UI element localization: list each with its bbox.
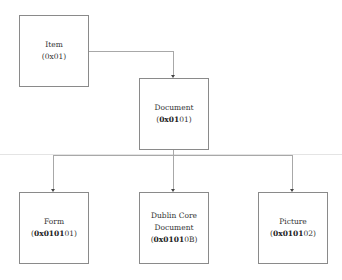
node-label: Picture — [279, 216, 307, 228]
node-label: Item — [45, 39, 63, 51]
node-code: (0x010102) — [270, 228, 316, 240]
node-dublin-core-document: Dublin Core Document (0x01010B) — [139, 192, 209, 264]
node-label-line1: Dublin Core — [151, 210, 197, 222]
node-label: Document — [155, 102, 194, 114]
connector-item-document-h — [88, 51, 174, 52]
node-form: Form (0x010101) — [19, 192, 89, 264]
node-label-line2: Document — [155, 222, 194, 234]
node-picture: Picture (0x010102) — [258, 192, 328, 264]
node-code: (0x010101) — [31, 228, 77, 240]
node-label: Form — [44, 216, 64, 228]
connector-item-document-v — [173, 51, 174, 76]
connector-to-dublin-core — [173, 155, 174, 190]
node-document: Document (0x0101) — [139, 78, 209, 150]
node-code: (0x0101) — [156, 114, 192, 126]
node-code: (0x01) — [42, 51, 66, 63]
connector-to-picture — [292, 155, 293, 190]
connector-to-form — [53, 155, 54, 190]
node-item: Item (0x01) — [19, 15, 89, 87]
node-code: (0x01010B) — [151, 234, 198, 246]
